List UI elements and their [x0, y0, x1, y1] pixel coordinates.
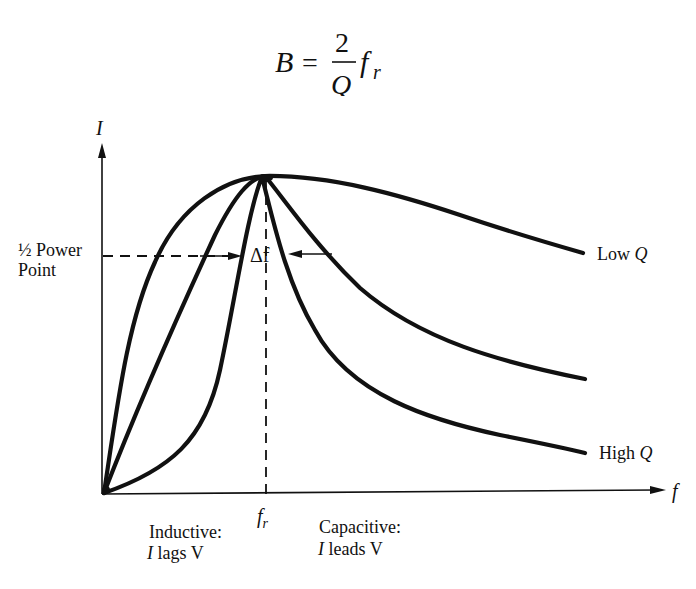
capacitive-text: leads V — [324, 539, 383, 559]
origin-point — [102, 486, 110, 494]
inductive-label-line2: I lags V — [147, 543, 204, 563]
low-q-text: Low — [597, 244, 635, 264]
resonant-frequency-label: fr — [257, 506, 268, 534]
x-axis — [102, 490, 655, 494]
bandwidth-label: Δf — [250, 245, 270, 265]
curve-low-q — [104, 176, 583, 493]
x-axis-label: f — [672, 481, 678, 501]
capacitive-label-line2: I leads V — [318, 539, 383, 559]
half-power-label-line1: ½ Power — [18, 240, 82, 260]
inductive-label-line1: Inductive: — [149, 522, 222, 542]
peak-point — [257, 174, 273, 182]
resonance-plot — [0, 0, 696, 589]
y-axis-label: I — [96, 118, 103, 138]
low-q-symbol: Q — [635, 244, 648, 264]
inductive-text: lags V — [153, 543, 204, 563]
arrow-left-icon — [288, 250, 302, 258]
half-power-label-line2: Point — [18, 260, 56, 280]
high-q-label: High Q — [599, 443, 653, 463]
low-q-label: Low Q — [597, 244, 648, 264]
bandwidth-symbol: Δf — [250, 244, 270, 266]
fr-subscript: r — [263, 516, 268, 531]
x-axis-arrow-icon — [650, 486, 666, 494]
capacitive-label-line1: Capacitive: — [319, 517, 401, 537]
high-q-text: High — [599, 443, 640, 463]
y-axis-arrow-icon — [98, 143, 106, 158]
high-q-symbol: Q — [640, 443, 653, 463]
